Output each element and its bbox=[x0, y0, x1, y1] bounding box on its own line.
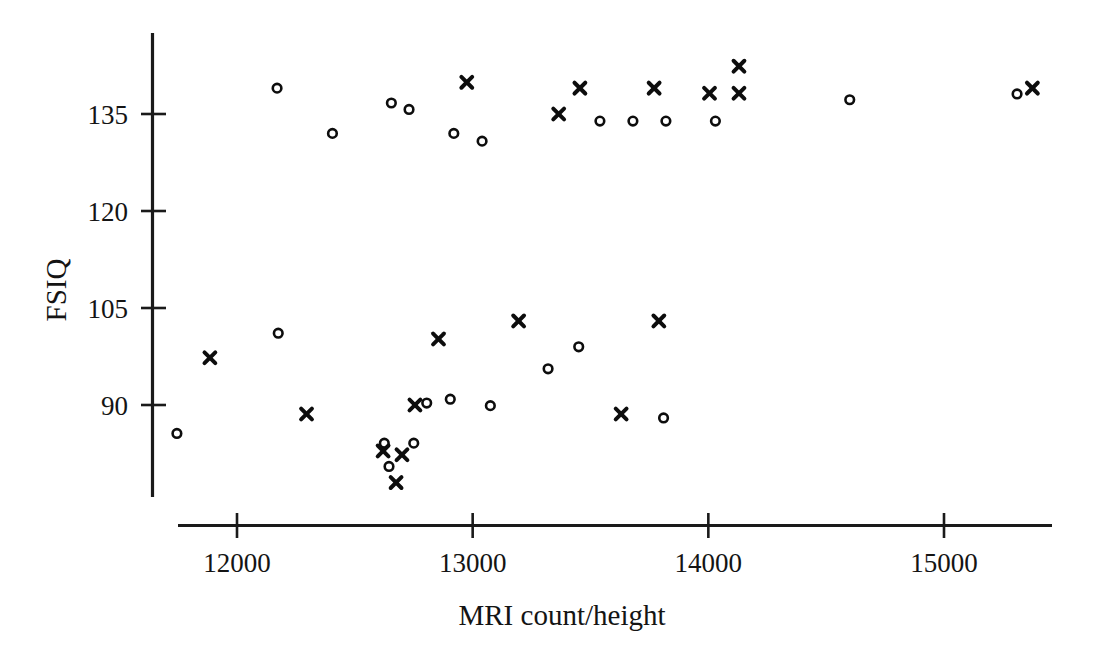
data-point-circle bbox=[273, 84, 282, 93]
y-tick-label: 135 bbox=[88, 100, 129, 130]
x-axis-title: MRI count/height bbox=[458, 599, 665, 631]
y-axis-tick-labels: 90105120135 bbox=[88, 100, 129, 421]
data-point-cross bbox=[704, 88, 715, 99]
data-point-circle bbox=[1013, 90, 1022, 99]
data-point-circle bbox=[450, 129, 459, 138]
y-axis-title: FSIQ bbox=[40, 259, 72, 322]
data-point-circle bbox=[662, 117, 671, 126]
data-point-circle bbox=[544, 364, 553, 373]
data-point-circle bbox=[173, 429, 182, 438]
data-point-cross bbox=[397, 449, 408, 460]
y-tick-label: 105 bbox=[88, 294, 129, 324]
data-point-circle bbox=[274, 329, 283, 338]
series-circle bbox=[173, 84, 1022, 471]
x-axis-tick-labels: 12000130001400015000 bbox=[203, 548, 978, 578]
data-point-circle bbox=[486, 401, 495, 410]
data-point-cross bbox=[734, 88, 745, 99]
data-point-circle bbox=[629, 117, 638, 126]
data-point-cross bbox=[574, 83, 585, 94]
scatter-plot-figure: 90105120135 12000130001400015000 FSIQ MR… bbox=[0, 0, 1095, 659]
data-point-circle bbox=[711, 117, 720, 126]
data-point-circle bbox=[422, 399, 431, 408]
data-point-cross bbox=[1027, 83, 1038, 94]
data-point-circle bbox=[446, 395, 455, 404]
data-point-circle bbox=[478, 137, 487, 146]
y-tick-label: 90 bbox=[101, 391, 128, 421]
data-point-circle bbox=[328, 129, 337, 138]
data-point-cross bbox=[553, 109, 564, 120]
data-point-cross bbox=[410, 400, 421, 411]
x-tick-label: 13000 bbox=[439, 548, 507, 578]
x-tick-label: 15000 bbox=[910, 548, 978, 578]
x-tick-label: 14000 bbox=[675, 548, 743, 578]
data-point-cross bbox=[649, 83, 660, 94]
data-point-cross bbox=[513, 316, 524, 327]
data-point-cross bbox=[461, 77, 472, 88]
data-point-cross bbox=[734, 61, 745, 72]
data-point-circle bbox=[659, 414, 668, 423]
data-point-cross bbox=[433, 334, 444, 345]
data-point-circle bbox=[845, 95, 854, 104]
data-point-circle bbox=[574, 343, 583, 352]
data-point-circle bbox=[385, 462, 394, 471]
series-cross bbox=[204, 61, 1037, 488]
data-point-cross bbox=[653, 316, 664, 327]
data-points-layer bbox=[173, 61, 1038, 488]
data-point-circle bbox=[596, 117, 605, 126]
data-point-cross bbox=[301, 409, 312, 420]
data-point-cross bbox=[391, 477, 402, 488]
x-tick-label: 12000 bbox=[203, 548, 271, 578]
data-point-circle bbox=[409, 439, 418, 448]
plot-area bbox=[153, 33, 1053, 526]
y-tick-label: 120 bbox=[88, 197, 129, 227]
data-point-cross bbox=[616, 409, 627, 420]
data-point-circle bbox=[387, 99, 396, 108]
data-point-cross bbox=[204, 352, 215, 363]
data-point-circle bbox=[405, 105, 414, 114]
